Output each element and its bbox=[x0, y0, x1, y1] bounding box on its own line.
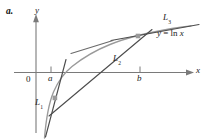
line-label-l3: L3 bbox=[163, 13, 171, 24]
curve-equation-rhs: ln x bbox=[171, 28, 184, 38]
curve-equation-eq: = bbox=[161, 28, 171, 38]
tick-label-b: b bbox=[137, 74, 142, 83]
line-label-l1-subscript: 1 bbox=[40, 104, 43, 110]
point-lower bbox=[53, 96, 58, 101]
part-label: a. bbox=[6, 7, 13, 17]
line-label-l2: L2 bbox=[113, 54, 121, 65]
line-label-l3-subscript: 3 bbox=[168, 19, 171, 25]
y-axis bbox=[33, 14, 39, 133]
tangent-segment bbox=[71, 41, 113, 54]
line-label-l2-subscript: 2 bbox=[118, 60, 121, 66]
y-axis-label: y bbox=[35, 6, 39, 15]
point-upper bbox=[136, 34, 141, 39]
figure-container: a. y x 0 a b L1 L2 L3 y = ln x bbox=[0, 0, 210, 140]
curve-points bbox=[53, 34, 141, 101]
tick-label-a: a bbox=[48, 74, 53, 83]
line-label-l1: L1 bbox=[35, 98, 43, 109]
plot-canvas bbox=[0, 0, 210, 140]
curve-equation-label: y = ln x bbox=[157, 29, 184, 38]
origin-label: 0 bbox=[26, 75, 31, 84]
ln-curve bbox=[45, 26, 192, 138]
x-axis-label: x bbox=[196, 66, 200, 75]
line-l3 bbox=[111, 25, 199, 41]
